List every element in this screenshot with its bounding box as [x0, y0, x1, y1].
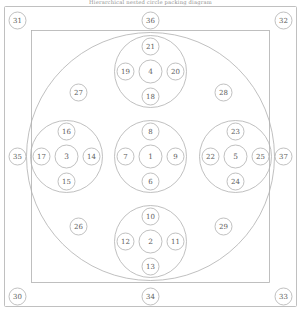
node-29-circle: [215, 218, 232, 235]
node-25-circle: [252, 148, 269, 165]
node-19-circle: [117, 63, 134, 80]
node-22-circle: [202, 148, 219, 165]
node-18-circle: [142, 88, 159, 105]
diagram-canvas: [0, 0, 301, 313]
node-33-circle: [275, 288, 292, 305]
outer-frame: [5, 7, 297, 307]
node-14-circle: [83, 148, 100, 165]
node-23-circle: [227, 123, 244, 140]
right-cluster-ring: [200, 121, 272, 193]
node-8-circle: [142, 123, 159, 140]
node-34-circle: [142, 288, 159, 305]
node-10-circle: [142, 208, 159, 225]
enclosing-circle: [27, 33, 275, 281]
node-17-circle: [33, 148, 50, 165]
left-cluster-ring: [31, 121, 103, 193]
node-37-circle: [275, 148, 292, 165]
node-15-circle: [58, 173, 75, 190]
center-cluster-ring: [115, 121, 187, 193]
node-32-circle: [275, 12, 292, 29]
node-6-circle: [142, 173, 159, 190]
node-28-circle: [215, 84, 232, 101]
node-7-circle: [117, 148, 134, 165]
node-35-circle: [9, 148, 26, 165]
node-16-circle: [58, 123, 75, 140]
node-12-circle: [117, 233, 134, 250]
node-26-circle: [70, 218, 87, 235]
node-5-circle: [224, 145, 247, 168]
node-13-circle: [142, 258, 159, 275]
node-27-circle: [70, 84, 87, 101]
node-2-circle: [139, 230, 162, 253]
node-11-circle: [167, 233, 184, 250]
inner-square: [32, 31, 270, 283]
node-24-circle: [227, 173, 244, 190]
node-36-circle: [142, 12, 159, 29]
node-21-circle: [142, 38, 159, 55]
bottom-cluster-ring: [115, 206, 187, 278]
node-31-circle: [9, 12, 26, 29]
node-30-circle: [9, 288, 26, 305]
node-4-circle: [139, 60, 162, 83]
node-9-circle: [167, 148, 184, 165]
node-20-circle: [167, 63, 184, 80]
node-3-circle: [55, 145, 78, 168]
node-1-circle: [139, 145, 162, 168]
top-cluster-ring: [115, 36, 187, 108]
diagram-figure: Hierarchical nested circle packing diagr…: [0, 0, 301, 313]
